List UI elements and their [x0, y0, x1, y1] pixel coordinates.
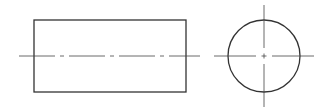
cylinder-orthographic-drawing: [0, 0, 332, 112]
front-view: [19, 20, 200, 92]
